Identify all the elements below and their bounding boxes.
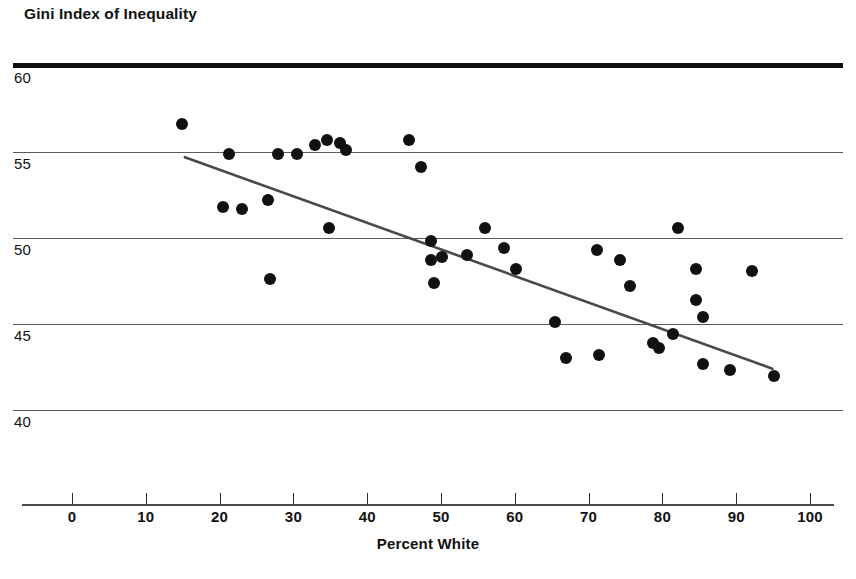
data-point [262, 194, 274, 206]
x-tick-90 [736, 493, 737, 504]
data-point [614, 254, 626, 266]
x-tick-60 [515, 493, 516, 504]
data-point [272, 148, 284, 160]
data-point [323, 222, 335, 234]
data-point [436, 251, 448, 263]
x-tick-label-30: 30 [273, 508, 313, 525]
data-point [697, 358, 709, 370]
data-point [264, 273, 276, 285]
x-tick-0 [72, 493, 73, 504]
x-tick-label-90: 90 [716, 508, 756, 525]
data-point [549, 316, 561, 328]
x-tick-label-70: 70 [569, 508, 609, 525]
x-tick-70 [589, 493, 590, 504]
x-tick-label-20: 20 [200, 508, 240, 525]
data-point [291, 148, 303, 160]
data-point [461, 249, 473, 261]
x-tick-label-50: 50 [421, 508, 461, 525]
data-point [340, 144, 352, 156]
x-tick-50 [441, 493, 442, 504]
data-point [425, 254, 437, 266]
data-point [236, 203, 248, 215]
data-point [428, 277, 440, 289]
x-tick-80 [662, 493, 663, 504]
x-tick-label-0: 0 [52, 508, 92, 525]
data-point [672, 222, 684, 234]
x-tick-100 [810, 493, 811, 504]
x-tick-label-40: 40 [347, 508, 387, 525]
x-tick-label-10: 10 [126, 508, 166, 525]
x-tick-label-80: 80 [642, 508, 682, 525]
data-point [309, 139, 321, 151]
data-point [321, 134, 333, 146]
data-point [498, 242, 510, 254]
data-point [593, 349, 605, 361]
trendline [0, 0, 856, 579]
data-point [697, 311, 709, 323]
x-tick-30 [293, 493, 294, 504]
x-axis-title: Percent White [0, 535, 856, 552]
x-tick-10 [146, 493, 147, 504]
x-tick-label-100: 100 [790, 508, 830, 525]
data-point [510, 263, 522, 275]
data-point [768, 370, 780, 382]
scatter-plot-figure: Gini Index of Inequality 4045505560 0102… [0, 0, 856, 579]
x-tick-20 [220, 493, 221, 504]
x-tick-40 [367, 493, 368, 504]
x-tick-label-60: 60 [495, 508, 535, 525]
data-point [479, 222, 491, 234]
data-point [223, 148, 235, 160]
data-point [624, 280, 636, 292]
x-axis-line [22, 504, 834, 506]
